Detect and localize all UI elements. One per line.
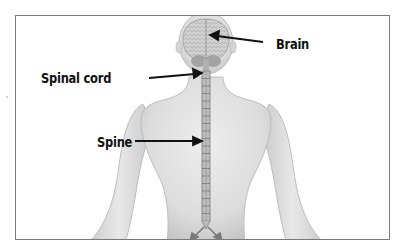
spine (202, 71, 210, 229)
label-spine: Spine (97, 134, 132, 150)
body-illustration (16, 16, 390, 240)
label-spinal-cord: Spinal cord (41, 70, 111, 86)
spinal-cord-arrow (149, 69, 202, 78)
brain-arrow (210, 31, 263, 42)
stray-mark (6, 96, 8, 98)
label-brain: Brain (276, 36, 309, 52)
diagram-frame: Brain Spinal cord Spine (15, 15, 390, 240)
